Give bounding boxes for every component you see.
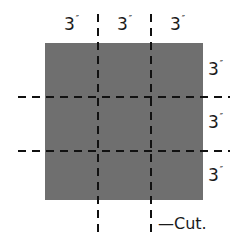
top-dimension-label-1: 3″ bbox=[64, 16, 79, 33]
cut-annotation: —Cut. bbox=[158, 216, 207, 232]
right-dimension-label-1: 3″ bbox=[208, 61, 223, 78]
right-dimension-label-2: 3″ bbox=[208, 114, 223, 131]
top-dimension-label-3: 3″ bbox=[170, 16, 185, 33]
right-dimension-label-3: 3″ bbox=[208, 167, 223, 184]
cutting-diagram: 3″ 3″ 3″ 3″ 3″ 3″ —Cut. bbox=[0, 0, 239, 241]
top-dimension-label-2: 3″ bbox=[117, 16, 132, 33]
cut-lines bbox=[0, 0, 239, 241]
